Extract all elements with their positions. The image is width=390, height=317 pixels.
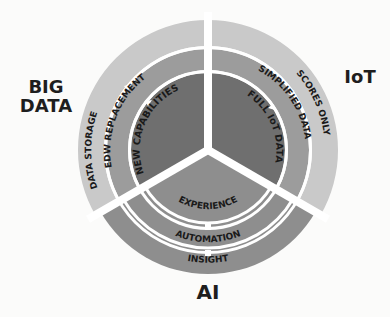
sector-title-big-data: BIG DATA [14, 78, 78, 116]
sector-title-iot: IoT [338, 68, 382, 87]
ring-diagram: DATA STORAGE EDW REPLACEMENT NEW CAPABIL… [0, 0, 390, 317]
diagram-canvas: DATA STORAGE EDW REPLACEMENT NEW CAPABIL… [0, 0, 390, 317]
sector-title-ai: AI [188, 282, 228, 303]
sector-title-big-data-line2: DATA [14, 97, 78, 116]
marker-icon [205, 224, 211, 230]
